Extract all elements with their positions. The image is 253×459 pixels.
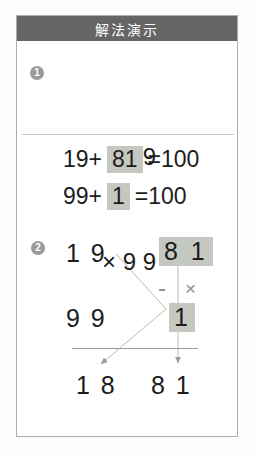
step1-badge: 1 bbox=[30, 66, 44, 80]
step2-complement-81: 8 1 bbox=[159, 237, 213, 266]
step2-factor-19: 1 9 bbox=[66, 239, 107, 268]
step2-factor-99: 9 9 bbox=[66, 304, 107, 333]
content-layer: 解法演示 1 1 9 × 9 9 19+ 81 =100 99+ 1 =100 … bbox=[17, 16, 237, 436]
horizontal-rule-step2 bbox=[72, 348, 198, 349]
result-left-18: 1 8 bbox=[76, 371, 117, 400]
panel-title-bar: 解法演示 bbox=[17, 16, 237, 41]
equation1-suffix: =100 bbox=[148, 146, 200, 173]
result-right-81: 8 1 bbox=[151, 371, 192, 400]
equation2-suffix: =100 bbox=[135, 183, 187, 210]
complement-equation-2: 99+ 1 =100 bbox=[63, 183, 187, 210]
equation2-highlight: 1 bbox=[107, 183, 130, 210]
minus-operator: - bbox=[158, 274, 166, 302]
step2-badge: 2 bbox=[31, 241, 45, 255]
equation1-highlight: 81 bbox=[107, 146, 143, 173]
equation2-prefix: 99+ bbox=[63, 183, 102, 210]
times-operator: × bbox=[185, 278, 196, 300]
panel-title: 解法演示 bbox=[95, 19, 159, 39]
equation1-prefix: 19+ bbox=[63, 146, 102, 173]
horizontal-rule-step1 bbox=[22, 134, 234, 135]
complement-equation-1: 19+ 81 =100 bbox=[63, 146, 199, 173]
solution-demo-panel: 解法演示 1 1 9 × 9 9 19+ 81 =100 99+ 1 =100 … bbox=[16, 15, 238, 437]
step2-complement-1: 1 bbox=[169, 303, 195, 332]
